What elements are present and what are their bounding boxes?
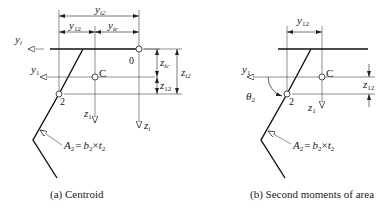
- point-c-marker: [92, 74, 98, 80]
- label-dim-yic: yic: [107, 19, 119, 33]
- caption-b: (b) Second moments of area: [250, 188, 374, 201]
- figure-canvas: yi y1 0 C 2 z1 zi yi2 y12 yic zic z12 zi…: [0, 0, 390, 213]
- label-dim-yi2: yi2: [94, 3, 106, 17]
- label-yi-axis: yi: [14, 33, 22, 47]
- label-dim-y12: y12: [68, 19, 81, 33]
- label-dim-z12: z12: [159, 79, 172, 93]
- label-dim-y12-b: y12: [296, 14, 309, 28]
- theta-arc: [268, 77, 282, 96]
- label-point-2: 2: [60, 96, 65, 107]
- caption-a: (a) Centroid: [50, 188, 104, 201]
- label-y1-axis-b: y1: [241, 63, 251, 77]
- label-zi-axis: zi: [143, 119, 150, 133]
- diagram-a-centroid: yi y1 0 C 2 z1 zi yi2 y12 yic zic z12 zi…: [14, 3, 191, 201]
- label-point-c-b: C: [326, 67, 333, 79]
- label-z1-axis: z1: [83, 107, 92, 121]
- label-point-2-b: 2: [289, 96, 294, 107]
- area-leader-line-b: [268, 131, 291, 144]
- label-theta: θ2: [246, 90, 255, 104]
- label-dim-z12-b: z12: [362, 78, 375, 92]
- label-dim-zi2: zi2: [180, 66, 191, 80]
- point-0-marker: [136, 46, 142, 52]
- label-area-formula: A2=b2×t2: [63, 139, 106, 153]
- label-y1-axis: y1: [30, 63, 40, 77]
- area-leader-line: [40, 130, 62, 145]
- web-b: [261, 49, 311, 178]
- label-z1-axis-b: z1: [307, 101, 316, 115]
- label-point-c: C: [99, 67, 106, 79]
- label-point-0: 0: [129, 55, 134, 66]
- label-dim-zic: zic: [159, 56, 170, 70]
- diagram-b-second-moments: y1 C 2 θ2 z1 y12 z12 A2=b2×t2 (b) Second…: [241, 14, 375, 201]
- label-area-formula-b: A2=b2×t2: [292, 139, 335, 153]
- web-a: [33, 49, 83, 178]
- point-c-marker-b: [319, 74, 325, 80]
